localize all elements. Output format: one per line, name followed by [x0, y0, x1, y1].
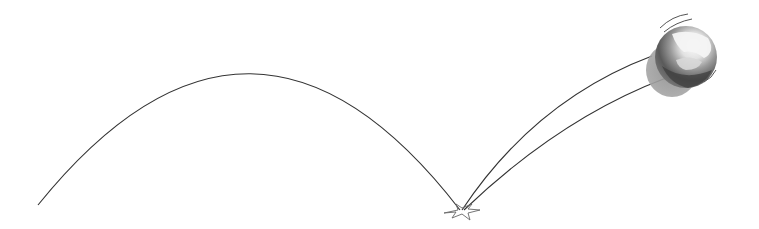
rebound-line-upper — [462, 56, 652, 210]
impact-star-icon — [444, 204, 480, 220]
illustration-canvas: Ball bounce illustration — [0, 0, 759, 229]
bounce-illustration — [0, 0, 759, 229]
rebound-line-lower — [464, 78, 666, 210]
ball-icon — [655, 26, 717, 88]
trajectory-arc — [38, 74, 460, 210]
